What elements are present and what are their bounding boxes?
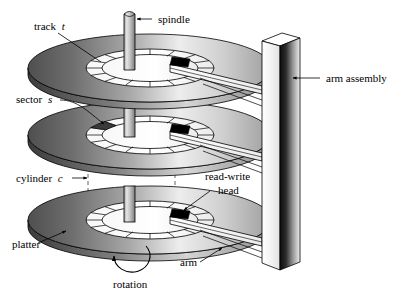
- label-cylinder: cylinder c: [16, 172, 63, 184]
- top-platter: [28, 34, 272, 109]
- arm-assembly-column: [262, 33, 300, 270]
- label-arm: arm: [180, 256, 198, 268]
- head-top-icon: [170, 57, 190, 67]
- label-read-write-head-line1: read-write: [205, 170, 250, 182]
- hdd-diagram: track t spindle arm assembly sector s cy…: [0, 0, 394, 304]
- head-bottom-icon: [170, 209, 190, 219]
- bottom-platter: [28, 186, 272, 261]
- label-track: track t: [34, 20, 66, 32]
- hdd-illustration: track t spindle arm assembly sector s cy…: [0, 0, 394, 304]
- label-spindle: spindle: [158, 13, 190, 25]
- spindle-upper-shaft: [124, 12, 135, 71]
- label-read-write-head-line2: head: [218, 184, 239, 196]
- label-arm-assembly: arm assembly: [326, 72, 387, 84]
- label-rotation: rotation: [113, 278, 148, 290]
- label-sector: sector s: [16, 93, 52, 105]
- head-middle-icon: [170, 124, 190, 134]
- middle-platter: [28, 101, 272, 176]
- spindle-segment-bottom: [124, 186, 135, 222]
- label-platter: platter: [12, 238, 40, 250]
